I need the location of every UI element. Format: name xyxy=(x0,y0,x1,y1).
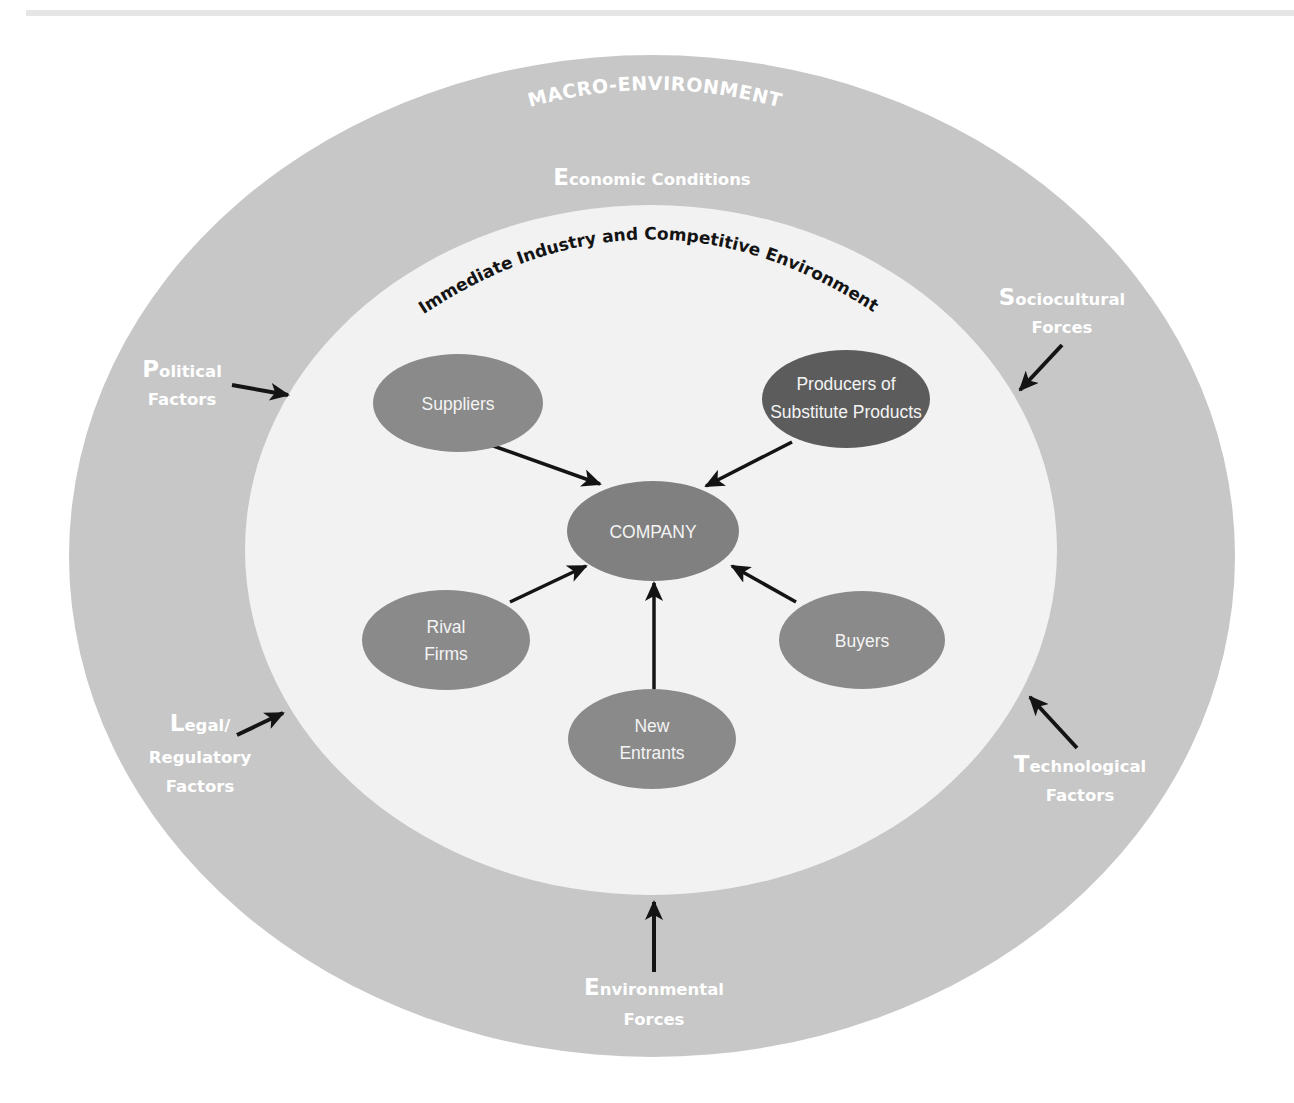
node-suppliers-label: Suppliers xyxy=(422,394,495,414)
factor-legal-line3: Factors xyxy=(166,777,235,796)
node-suppliers: Suppliers xyxy=(373,354,543,452)
node-substitutes-label-line2: Substitute Products xyxy=(770,402,922,422)
factor-legal-line2: Regulatory xyxy=(149,748,252,767)
node-company: COMPANY xyxy=(567,481,739,581)
node-new-entrants: New Entrants xyxy=(568,689,736,789)
factor-sociocultural-line2: Forces xyxy=(1032,318,1093,337)
factor-political-line2: Factors xyxy=(148,390,217,409)
node-buyers: Buyers xyxy=(779,591,945,689)
factor-environmental-line2: Forces xyxy=(624,1010,685,1029)
node-substitutes-label-line1: Producers of xyxy=(796,374,895,394)
node-substitute-producers: Producers of Substitute Products xyxy=(762,350,930,448)
node-company-label: COMPANY xyxy=(609,522,697,542)
node-rivals-label-line1: Rival xyxy=(427,617,466,637)
node-rival-firms: Rival Firms xyxy=(362,590,530,690)
node-rivals-label-line2: Firms xyxy=(424,644,468,664)
node-new-entrants-label-line2: Entrants xyxy=(619,743,684,763)
node-buyers-label: Buyers xyxy=(835,631,890,651)
environment-diagram: MACRO-ENVIRONMENT Immediate Industry and… xyxy=(0,0,1294,1103)
node-new-entrants-label-line1: New xyxy=(634,716,669,736)
factor-technological-line2: Factors xyxy=(1046,786,1115,805)
